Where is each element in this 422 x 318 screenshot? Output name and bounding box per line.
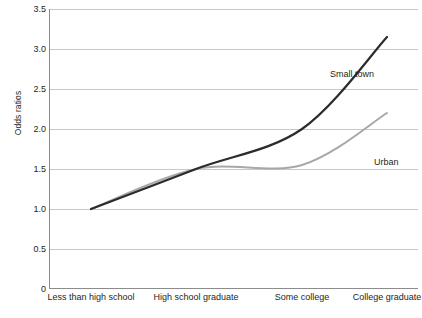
series-line-urban [91,113,387,209]
chart-container: Odds ratios 0 0.5 1.0 1.5 2.0 2.5 3.0 3.… [0,0,422,318]
x-tick-label: Less than high school [47,292,134,303]
series-line-small-town [91,37,387,209]
y-tick-label: 0.5 [4,245,46,254]
axis-lines [49,9,418,289]
plot-area: Small town Urban [49,9,418,289]
y-tick-label: 1.5 [4,165,46,174]
x-tick-label: High school graduate [153,292,238,303]
chart-plot-svg [49,9,418,289]
y-axis-tick-labels: 0 0.5 1.0 1.5 2.0 2.5 3.0 3.5 [0,0,46,318]
data-series-layer [91,37,387,209]
x-axis-tick-labels: Less than high school High school gradua… [0,292,422,314]
x-tick-label: College graduate [353,292,422,303]
y-tick-label: 2.0 [4,125,46,134]
y-tick-label: 1.0 [4,205,46,214]
y-tick-label: 3.5 [4,5,46,14]
y-tick-label: 3.0 [4,45,46,54]
series-label-urban: Urban [374,157,399,167]
y-tick-label: 2.5 [4,85,46,94]
series-label-small-town: Small town [330,69,374,79]
x-tick-label: Some college [275,292,330,303]
